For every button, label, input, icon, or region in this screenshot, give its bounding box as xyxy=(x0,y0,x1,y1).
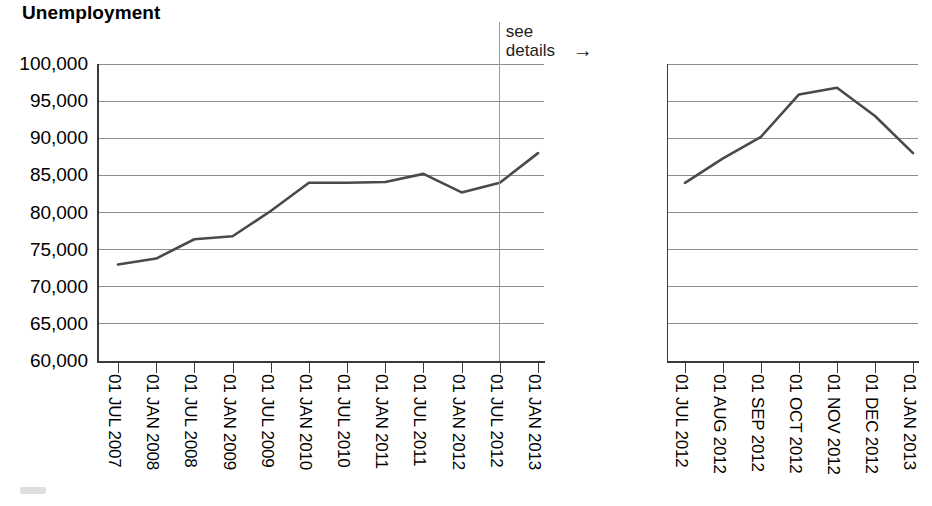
see-details-annotation: see details → xyxy=(0,0,932,506)
chart-page: Unemployment 100,00095,00090,00085,00080… xyxy=(0,0,932,506)
page-artifact xyxy=(20,487,46,494)
annotation-line-2: details xyxy=(506,41,555,60)
annotation-line-1: see xyxy=(506,22,533,41)
annotation-marker-line xyxy=(499,22,500,361)
annotation-arrow-icon: → xyxy=(573,41,593,60)
